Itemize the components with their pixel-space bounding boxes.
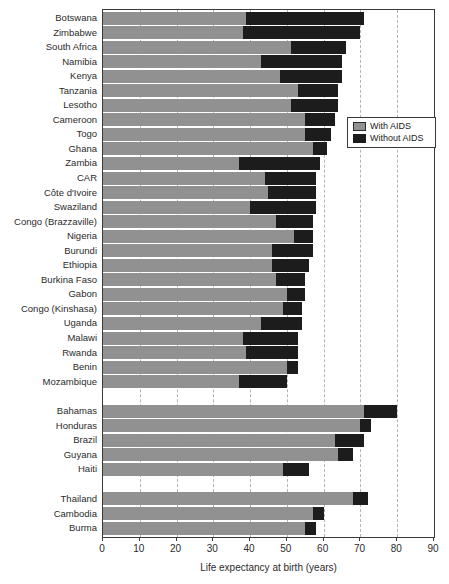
bar-without-aids bbox=[103, 128, 331, 141]
country-label: Uganda bbox=[64, 319, 97, 329]
country-label: Congo (Brazzaville) bbox=[14, 217, 97, 227]
bar-row: Congo (Brazzaville) bbox=[103, 215, 434, 230]
bar-row: Cambodia bbox=[103, 507, 434, 522]
bar-without-aids bbox=[103, 273, 305, 286]
bar-without-aids bbox=[103, 201, 316, 214]
country-label: Nigeria bbox=[67, 231, 97, 241]
bar-segment-with-aids bbox=[103, 26, 243, 39]
bar-row: Botswana bbox=[103, 12, 434, 27]
bar-segment-with-aids bbox=[103, 230, 294, 243]
country-label: Brazil bbox=[73, 436, 97, 446]
bar-without-aids bbox=[103, 346, 298, 359]
bar-row: Burkina Faso bbox=[103, 273, 434, 288]
bar-without-aids bbox=[103, 186, 316, 199]
x-tick-label-60: 60 bbox=[317, 544, 328, 554]
bar-segment-with-aids bbox=[103, 157, 239, 170]
country-label: Thailand bbox=[61, 494, 97, 504]
bar-segment-with-aids bbox=[103, 507, 313, 520]
bar-segment-with-aids bbox=[103, 522, 305, 535]
bar-without-aids bbox=[103, 361, 298, 374]
bar-row: Zambia bbox=[103, 157, 434, 172]
bar-without-aids bbox=[103, 41, 346, 54]
bar-row: Zimbabwe bbox=[103, 26, 434, 41]
bar-without-aids bbox=[103, 434, 364, 447]
x-tick-label-0: 0 bbox=[99, 544, 105, 554]
country-label: Togo bbox=[76, 130, 97, 140]
bar-row: Benin bbox=[103, 361, 434, 376]
bar-segment-with-aids bbox=[103, 113, 305, 126]
bar-row: Mozambique bbox=[103, 375, 434, 390]
bar-segment-with-aids bbox=[103, 12, 246, 25]
plot-area: BotswanaZimbabweSouth AfricaNamibiaKenya… bbox=[102, 9, 435, 538]
x-tick-label-20: 20 bbox=[170, 544, 181, 554]
x-tick-10 bbox=[139, 537, 140, 541]
bar-without-aids bbox=[103, 332, 298, 345]
country-label: Cambodia bbox=[54, 509, 97, 519]
bar-row: Guyana bbox=[103, 448, 434, 463]
bar-segment-with-aids bbox=[103, 41, 291, 54]
bar-row: Honduras bbox=[103, 419, 434, 434]
bar-segment-with-aids bbox=[103, 273, 276, 286]
bar-row: Burma bbox=[103, 522, 434, 537]
bar-without-aids bbox=[103, 230, 313, 243]
bar-row: Gabon bbox=[103, 288, 434, 303]
life-expectancy-chart: BotswanaZimbabweSouth AfricaNamibiaKenya… bbox=[0, 0, 449, 584]
bar-row: Malawi bbox=[103, 332, 434, 347]
bar-segment-with-aids bbox=[103, 405, 364, 418]
bar-without-aids bbox=[103, 84, 338, 97]
bar-group-africa: BotswanaZimbabweSouth AfricaNamibiaKenya… bbox=[103, 12, 434, 390]
x-axis-title: Life expectancy at birth (years) bbox=[102, 562, 435, 573]
country-label: Tanzania bbox=[59, 86, 97, 96]
country-label: Lesotho bbox=[63, 101, 97, 111]
without-aids-swatch-icon bbox=[353, 134, 366, 143]
bar-without-aids bbox=[103, 12, 364, 25]
country-label: Rwanda bbox=[62, 348, 97, 358]
x-tick-label-10: 10 bbox=[133, 544, 144, 554]
x-tick-label-70: 70 bbox=[354, 544, 365, 554]
legend-label-with-aids: With AIDS bbox=[370, 122, 411, 131]
legend-label-without-aids: Without AIDS bbox=[370, 134, 424, 143]
bar-row: Lesotho bbox=[103, 99, 434, 114]
x-tick-label-30: 30 bbox=[207, 544, 218, 554]
bar-segment-with-aids bbox=[103, 128, 305, 141]
bar-without-aids bbox=[103, 317, 302, 330]
legend-item-without-aids: Without AIDS bbox=[353, 134, 430, 143]
bar-segment-with-aids bbox=[103, 201, 250, 214]
bar-row: South Africa bbox=[103, 41, 434, 56]
bar-segment-with-aids bbox=[103, 142, 313, 155]
country-label: Benin bbox=[73, 362, 97, 372]
bar-row: Côte d'Ivoire bbox=[103, 186, 434, 201]
country-label: Ethiopia bbox=[63, 261, 97, 271]
bar-segment-with-aids bbox=[103, 172, 265, 185]
country-label: Swaziland bbox=[54, 202, 97, 212]
x-tick-80 bbox=[396, 537, 397, 541]
bar-group-americas: BahamasHondurasBrazilGuyanaHaiti bbox=[103, 405, 434, 478]
country-label: Botswana bbox=[55, 13, 97, 23]
country-label: Honduras bbox=[56, 421, 97, 431]
x-tick-label-50: 50 bbox=[280, 544, 291, 554]
bar-without-aids bbox=[103, 172, 316, 185]
bar-segment-with-aids bbox=[103, 302, 283, 315]
bar-segment-with-aids bbox=[103, 361, 287, 374]
bar-row: Thailand bbox=[103, 492, 434, 507]
bar-without-aids bbox=[103, 302, 302, 315]
x-tick-label-80: 80 bbox=[391, 544, 402, 554]
country-label: Cameroon bbox=[53, 115, 97, 125]
country-label: Congo (Kinshasa) bbox=[21, 304, 97, 314]
bar-segment-with-aids bbox=[103, 84, 298, 97]
bar-row: Rwanda bbox=[103, 346, 434, 361]
bar-row: Uganda bbox=[103, 317, 434, 332]
bar-without-aids bbox=[103, 288, 305, 301]
country-label: Burkina Faso bbox=[41, 275, 97, 285]
bar-row: Ethiopia bbox=[103, 259, 434, 274]
bar-without-aids bbox=[103, 375, 287, 388]
bar-segment-with-aids bbox=[103, 288, 287, 301]
bar-row: Swaziland bbox=[103, 201, 434, 216]
bar-row: Congo (Kinshasa) bbox=[103, 302, 434, 317]
bar-without-aids bbox=[103, 522, 316, 535]
bar-without-aids bbox=[103, 259, 309, 272]
bar-segment-with-aids bbox=[103, 419, 360, 432]
bar-segment-with-aids bbox=[103, 448, 338, 461]
x-tick-40 bbox=[249, 537, 250, 541]
bar-without-aids bbox=[103, 113, 335, 126]
